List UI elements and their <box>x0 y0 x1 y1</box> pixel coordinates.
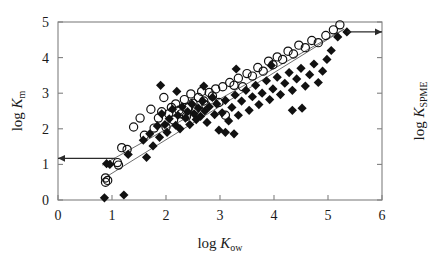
label-prefix: log <box>197 235 220 251</box>
label-subscript: SPME <box>418 81 429 107</box>
y-left-tick-label: 3 <box>42 86 49 101</box>
y-left-tick-label: 1 <box>42 157 49 172</box>
label-subscript: m <box>16 90 27 98</box>
label-prefix: log <box>9 108 25 131</box>
y-left-tick-label: 5 <box>42 15 49 30</box>
y-left-tick-label: 0 <box>42 193 49 208</box>
label-prefix: log <box>411 118 427 141</box>
x-tick-label: 4 <box>271 208 278 223</box>
figure-container: 0123456012345 log Kow log Km log KSPME <box>0 0 448 261</box>
label-subscript: ow <box>230 242 243 253</box>
scatter-plot: 0123456012345 log Kow log Km log KSPME <box>0 0 448 261</box>
x-tick-label: 3 <box>217 208 224 223</box>
x-tick-label: 0 <box>55 208 62 223</box>
x-tick-label: 5 <box>325 208 332 223</box>
y-left-tick-label: 4 <box>42 51 49 66</box>
x-tick-label: 6 <box>379 208 386 223</box>
x-tick-label: 1 <box>109 208 116 223</box>
x-tick-label: 2 <box>163 208 170 223</box>
y-left-tick-label: 2 <box>42 122 49 137</box>
